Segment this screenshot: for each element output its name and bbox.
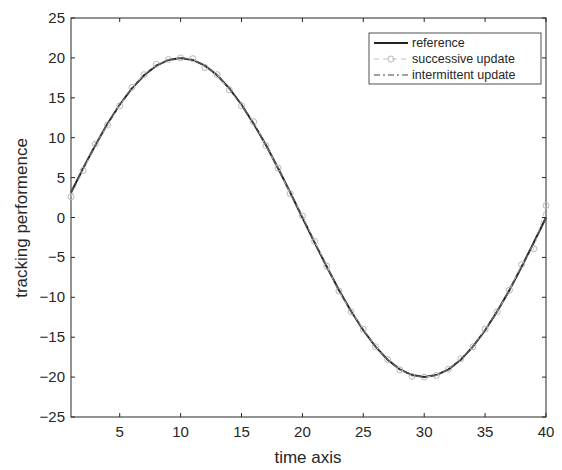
legend-label: intermittent update (412, 68, 516, 82)
x-tick-label: 5 (116, 423, 124, 440)
y-tick-label: 0 (57, 209, 65, 226)
y-tick-label: 10 (48, 129, 65, 146)
x-tick-label: 35 (477, 423, 494, 440)
legend: reference successive update intermittent… (369, 33, 541, 84)
chart-figure: 510152025303540−25−20−15−10−50510152025 … (0, 0, 562, 470)
y-tick-label: −15 (40, 328, 65, 345)
y-tick-label: −20 (40, 368, 65, 385)
y-tick-label: −5 (48, 248, 65, 265)
y-tick-label: −25 (40, 408, 65, 425)
legend-label: successive update (412, 52, 515, 66)
y-axis-label: tracking performence (12, 138, 31, 298)
x-tick-label: 30 (416, 423, 433, 440)
y-tick-label: 20 (48, 49, 65, 66)
y-tick-label: −10 (40, 288, 65, 305)
y-tick-label: 5 (57, 169, 65, 186)
y-tick-label: 25 (48, 9, 65, 26)
x-tick-label: 10 (172, 423, 189, 440)
legend-label: reference (412, 36, 465, 50)
x-tick-label: 40 (538, 423, 555, 440)
x-tick-label: 20 (294, 423, 311, 440)
x-tick-label: 15 (233, 423, 250, 440)
x-axis-label: time axis (274, 448, 341, 467)
y-tick-label: 15 (48, 89, 65, 106)
x-tick-label: 25 (355, 423, 372, 440)
